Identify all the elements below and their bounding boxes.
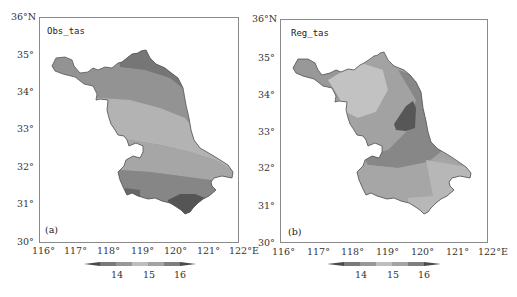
panel-obs-tas: Obs_tas (a) 36°N 35° 34° 33° 32° 31° 30°… [0, 0, 258, 297]
colorbar-tick-16: 16 [418, 269, 430, 280]
colorbar-tick-15: 15 [387, 269, 399, 280]
colorbar-tick-15: 15 [143, 269, 155, 280]
colorbar-tick-14: 14 [355, 269, 367, 280]
colorbar-a [0, 0, 258, 297]
colorbar-b [258, 0, 517, 297]
colorbar-tick-14: 14 [111, 269, 123, 280]
colorbar-tick-16: 16 [174, 269, 186, 280]
panel-reg-tas: Reg_tas (b) 36°N 35° 34° 33° 32° 31° 30°… [258, 0, 517, 297]
